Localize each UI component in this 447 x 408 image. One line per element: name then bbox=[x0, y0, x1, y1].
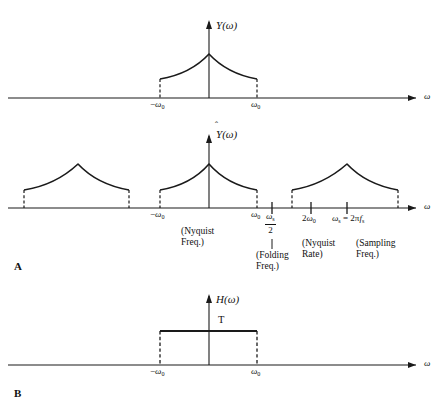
omega-axis-label-bottom: ω bbox=[424, 359, 430, 368]
sampling-freq-line2: Freq.) bbox=[356, 249, 379, 259]
nyquist-freq-annotation: (Nyquist Freq.) bbox=[181, 226, 237, 248]
nyquist-rate-line1: (Nyquist bbox=[302, 238, 335, 248]
folding-freq-annotation: (Folding Freq.) bbox=[256, 250, 304, 272]
panel-letter-a: A bbox=[14, 261, 22, 272]
y-axis-label-top: Y(ω) bbox=[216, 20, 237, 31]
tick-label-omega0-top: ω0 bbox=[251, 100, 260, 110]
folding-freq-line2: Freq.) bbox=[256, 261, 279, 271]
omega-axis-arrow-top bbox=[408, 95, 416, 101]
omega-axis-label-mid: ω bbox=[424, 202, 430, 211]
panel-letter-b: B bbox=[14, 388, 21, 399]
omega-axis-label-top: ω bbox=[424, 92, 430, 101]
tick-label-neg-omega0-top: −ω0 bbox=[150, 100, 165, 110]
tick-label-omega-s: ωs = 2πfs bbox=[332, 214, 364, 224]
amplitude-label-t: T bbox=[218, 315, 224, 326]
folding-freq-line1: (Folding bbox=[256, 250, 289, 260]
nyquist-rate-annotation: (Nyquist Rate) bbox=[302, 238, 354, 260]
vertical-axis-arrow-top bbox=[206, 20, 212, 29]
sampling-spectrum-figure bbox=[0, 0, 447, 408]
sampling-freq-annotation: (Sampling Freq.) bbox=[356, 238, 412, 260]
omega-axis-arrow-bottom bbox=[408, 362, 416, 368]
panel-a-top-group bbox=[8, 20, 416, 101]
vertical-axis-arrow-bottom bbox=[206, 294, 212, 303]
left-alias-spectrum-curve bbox=[24, 164, 129, 190]
sampling-freq-line1: (Sampling bbox=[356, 238, 396, 248]
tick-label-neg-omega0-bottom: −ω0 bbox=[150, 367, 165, 377]
tick-label-omega-s-over-2: ωs 2 bbox=[265, 211, 276, 236]
omega-axis-arrow-mid bbox=[408, 205, 416, 211]
panel-b-group bbox=[8, 294, 416, 368]
tick-label-omega0-mid: ω0 bbox=[251, 210, 260, 220]
y-axis-label-bottom: H(ω) bbox=[216, 294, 239, 305]
vertical-axis-arrow-mid bbox=[206, 134, 212, 143]
tick-label-neg-omega0-mid: −ω0 bbox=[150, 210, 165, 220]
right-alias-spectrum-curve bbox=[292, 164, 398, 190]
nyquist-freq-line1: (Nyquist bbox=[181, 226, 214, 236]
tick-label-omega0-bottom: ω0 bbox=[251, 367, 260, 377]
y-axis-label-mid: Ŷ(ω) bbox=[216, 129, 237, 140]
nyquist-rate-line2: Rate) bbox=[302, 249, 323, 259]
nyquist-freq-line2: Freq.) bbox=[181, 237, 204, 247]
tick-label-two-omega0: 2ω0 bbox=[302, 214, 316, 224]
